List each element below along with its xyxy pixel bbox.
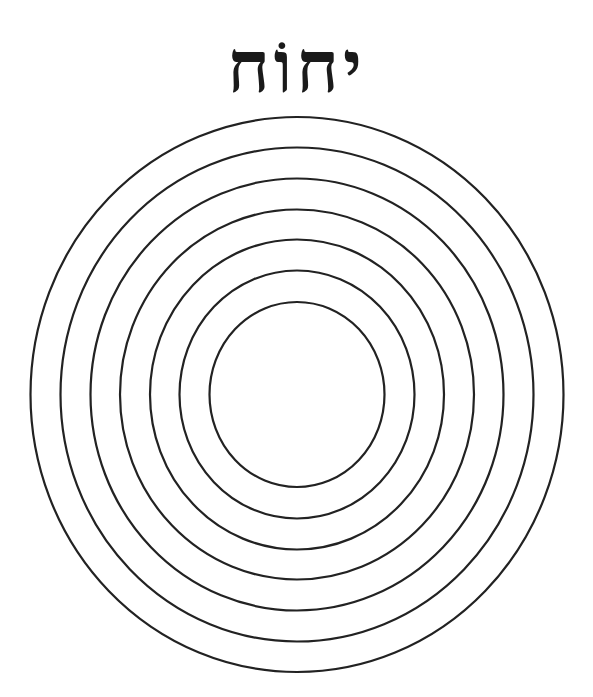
ring-1 <box>31 117 564 672</box>
ring-3 <box>91 179 504 611</box>
concentric-rings-diagram <box>0 0 593 697</box>
ring-4 <box>120 210 474 580</box>
ring-2 <box>61 148 534 642</box>
ring-6 <box>180 271 415 519</box>
ring-5 <box>150 240 444 550</box>
ring-7 <box>210 302 385 487</box>
